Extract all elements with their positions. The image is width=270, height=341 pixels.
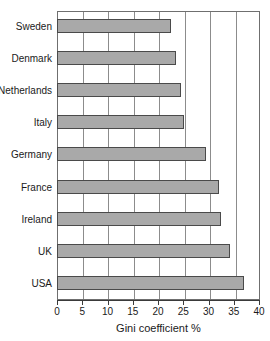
bar-row	[57, 236, 260, 268]
bar-denmark	[57, 51, 176, 65]
x-tick-label-5: 5	[70, 305, 94, 318]
bars-layer	[57, 11, 260, 300]
category-label-usa: USA	[31, 268, 52, 300]
bar-row	[57, 11, 260, 43]
bar-ireland	[57, 212, 221, 226]
bar-netherlands	[57, 83, 181, 97]
bar-italy	[57, 115, 184, 129]
x-tick-label-20: 20	[146, 305, 170, 318]
bar-row	[57, 75, 260, 107]
bar-uk	[57, 244, 230, 258]
category-label-netherlands: Netherlands	[0, 75, 52, 107]
category-label-sweden: Sweden	[16, 11, 52, 43]
bar-usa	[57, 276, 244, 290]
bar-germany	[57, 147, 206, 161]
x-tick-label-15: 15	[121, 305, 145, 318]
x-tick-label-40: 40	[247, 305, 270, 318]
category-label-france: France	[21, 172, 52, 204]
chart-title-clipped	[57, 0, 257, 3]
bar-france	[57, 180, 219, 194]
bar-row	[57, 139, 260, 171]
x-tick-label-10: 10	[96, 305, 120, 318]
gini-coefficient-bar-chart: SwedenDenmarkNetherlandsItalyGermanyFran…	[0, 0, 270, 341]
x-tick-label-30: 30	[197, 305, 221, 318]
category-axis-labels: SwedenDenmarkNetherlandsItalyGermanyFran…	[0, 11, 55, 300]
category-label-germany: Germany	[11, 139, 52, 171]
category-label-ireland: Ireland	[21, 204, 52, 236]
category-label-denmark: Denmark	[11, 43, 52, 75]
x-tick-label-35: 35	[222, 305, 246, 318]
category-label-uk: UK	[38, 236, 52, 268]
bar-row	[57, 268, 260, 300]
bar-row	[57, 43, 260, 75]
x-tick-label-0: 0	[45, 305, 69, 318]
bar-row	[57, 204, 260, 236]
category-label-italy: Italy	[34, 107, 52, 139]
bar-row	[57, 107, 260, 139]
x-tick-label-25: 25	[171, 305, 195, 318]
bar-row	[57, 172, 260, 204]
bar-sweden	[57, 19, 171, 33]
x-axis-title: Gini coefficient %	[57, 322, 260, 334]
